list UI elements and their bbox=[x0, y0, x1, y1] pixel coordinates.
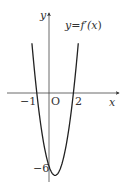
function-graph bbox=[0, 0, 125, 184]
function-label-f: f′( bbox=[80, 19, 91, 32]
function-label: y=f′(x) bbox=[65, 20, 102, 31]
derivative-curve bbox=[32, 43, 78, 175]
x-tick-two: 2 bbox=[75, 96, 82, 107]
y-tick-neg-six: −6 bbox=[33, 163, 49, 174]
origin-label: O bbox=[51, 96, 60, 107]
y-axis-label: y bbox=[40, 10, 46, 21]
function-label-close: ) bbox=[98, 19, 102, 32]
x-axis-label: x bbox=[109, 97, 115, 108]
x-tick-neg-one: −1 bbox=[20, 96, 36, 107]
